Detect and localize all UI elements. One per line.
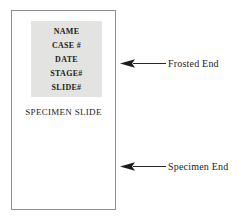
frosted-line-slide: SLIDE#: [31, 81, 102, 95]
callout-frosted-end: Frosted End: [119, 56, 219, 70]
frosted-line-case: CASE #: [31, 39, 102, 53]
left-arrow-icon: [119, 161, 166, 172]
frosted-label-lines: NAME CASE # DATE STAGE# SLIDE#: [31, 25, 102, 95]
left-arrow-icon: [119, 58, 166, 69]
frosted-label-area: NAME CASE # DATE STAGE# SLIDE#: [31, 21, 102, 97]
specimen-slide-caption: SPECIMEN SLIDE: [11, 107, 116, 117]
frosted-line-stage: STAGE#: [31, 67, 102, 81]
callout-frosted-end-label: Frosted End: [168, 58, 219, 69]
frosted-line-date: DATE: [31, 53, 102, 67]
slide-diagram-canvas: NAME CASE # DATE STAGE# SLIDE# SPECIMEN …: [0, 0, 243, 220]
callout-specimen-end-label: Specimen End: [168, 161, 228, 172]
callout-specimen-end: Specimen End: [119, 159, 228, 173]
frosted-line-name: NAME: [31, 25, 102, 39]
